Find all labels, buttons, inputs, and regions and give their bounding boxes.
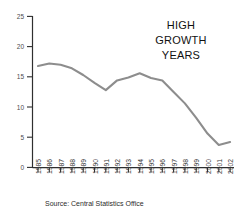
- x-tick-label-1994: 1994: [137, 159, 144, 174]
- x-tick-label-1996: 1996: [159, 159, 166, 174]
- x-tick-label-1997: 1997: [171, 159, 178, 174]
- y-tick-label-20: 20: [17, 43, 25, 50]
- x-tick-label-2001: 2001: [216, 159, 223, 174]
- annotation-line-2: GROWTH: [155, 34, 206, 46]
- x-tick-label-2000: 2000: [205, 159, 212, 174]
- annotation-line-3: YEARS: [162, 49, 200, 61]
- x-tick-label-1993: 1993: [125, 159, 132, 174]
- x-tick-label-1991: 1991: [103, 159, 110, 174]
- x-tick-label-2002: 2002: [227, 159, 234, 174]
- x-tick-label-1988: 1988: [69, 159, 76, 174]
- x-tick-label-1985: 1985: [35, 159, 42, 174]
- x-tick-label-1986: 1986: [46, 159, 53, 174]
- chart-container: 25 20 15 10 5 0 1985: [0, 0, 244, 212]
- x-tick-label-1989: 1989: [80, 159, 87, 174]
- annotation-line-1: HIGH: [167, 19, 195, 31]
- y-tick-label-0: 0: [20, 164, 24, 171]
- x-tick-label-1992: 1992: [114, 159, 121, 174]
- y-tick-label-10: 10: [17, 104, 25, 111]
- source-caption: Source: Central Statistics Office: [45, 200, 144, 207]
- x-tick-label-1995: 1995: [148, 159, 155, 174]
- chart-background: [0, 0, 244, 212]
- x-tick-label-1990: 1990: [92, 159, 99, 174]
- x-tick-label-1987: 1987: [58, 159, 65, 174]
- line-chart-svg: 25 20 15 10 5 0 1985: [0, 0, 244, 212]
- x-tick-label-1999: 1999: [193, 159, 200, 174]
- y-tick-label-15: 15: [17, 73, 25, 80]
- x-tick-label-1998: 1998: [182, 159, 189, 174]
- y-tick-label-25: 25: [17, 13, 25, 20]
- y-tick-label-5: 5: [20, 134, 24, 141]
